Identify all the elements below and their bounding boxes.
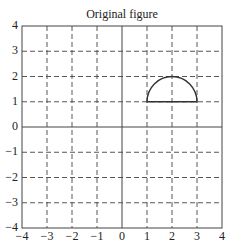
x-tick-label: 2	[160, 230, 184, 242]
x-tick-label: 4	[210, 230, 232, 242]
y-tick-label: 1	[0, 95, 18, 107]
x-tick-label: −4	[10, 230, 34, 242]
data-series	[147, 77, 197, 102]
y-tick-label: 4	[0, 19, 18, 31]
y-tick-label: 0	[0, 120, 18, 132]
y-tick-label: −3	[0, 196, 18, 208]
y-tick-label: 3	[0, 44, 18, 56]
zero-axes	[22, 26, 222, 228]
x-tick-label: 3	[185, 230, 209, 242]
x-tick-label: 1	[135, 230, 159, 242]
y-tick-label: −1	[0, 145, 18, 157]
y-tick-label: −2	[0, 171, 18, 183]
y-tick-label: 2	[0, 70, 18, 82]
x-tick-label: −2	[60, 230, 84, 242]
semicircle-shape	[147, 77, 197, 102]
x-tick-label: −1	[85, 230, 109, 242]
plot-area	[0, 0, 232, 247]
x-tick-label: 0	[110, 230, 134, 242]
x-tick-label: −3	[35, 230, 59, 242]
